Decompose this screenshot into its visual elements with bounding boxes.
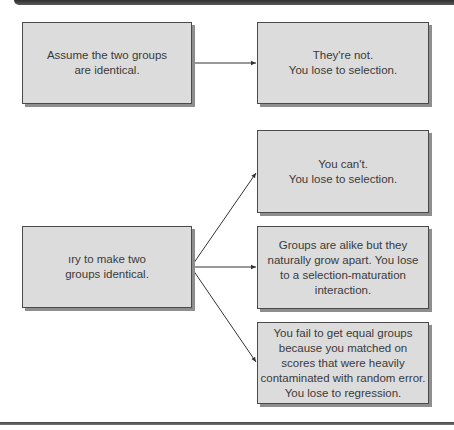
box-you-cant: You can't. You lose to selection. bbox=[257, 130, 429, 213]
box-selection-maturation: Groups are alike but they naturally grow… bbox=[257, 226, 429, 309]
box-text-line: You lose to selection. bbox=[289, 172, 397, 187]
box-text-line: to a selection-maturation bbox=[268, 268, 419, 283]
arrow-to-you-cant bbox=[191, 173, 256, 267]
box-assume-identical: Assume the two groups are identical. bbox=[22, 22, 192, 104]
box-text-line: ıry to make two bbox=[65, 252, 149, 267]
arrow-to-regression bbox=[191, 267, 256, 362]
bottom-rule bbox=[0, 422, 454, 425]
box-theyre-not: They're not. You lose to selection. bbox=[257, 22, 429, 104]
box-text-line: because you matched on bbox=[261, 341, 426, 356]
box-text-line: are identical. bbox=[47, 63, 167, 78]
box-text-line: They're not. bbox=[289, 48, 397, 63]
box-text-line: interaction. bbox=[268, 283, 419, 298]
box-text-line: You fail to get equal groups bbox=[261, 326, 426, 341]
box-text-line: You can't. bbox=[289, 157, 397, 172]
box-text-line: naturally grow apart. You lose bbox=[268, 253, 419, 268]
box-text-line: Assume the two groups bbox=[47, 48, 167, 63]
box-text-line: You lose to selection. bbox=[289, 63, 397, 78]
box-try-make-identical: ıry to make two groups identical. bbox=[22, 226, 192, 308]
box-text-line: groups identical. bbox=[65, 267, 149, 282]
box-text-line: contaminated with random error. bbox=[261, 371, 426, 386]
box-regression: You fail to get equal groups because you… bbox=[257, 322, 429, 404]
box-text-line: You lose to regression. bbox=[261, 386, 426, 401]
box-text-line: Groups are alike but they bbox=[268, 238, 419, 253]
box-text-line: scores that were heavily bbox=[261, 356, 426, 371]
